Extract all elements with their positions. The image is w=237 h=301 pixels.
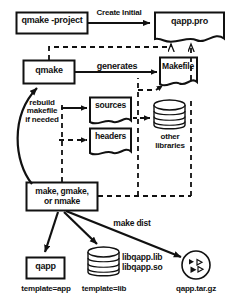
- edge-into-makefile: [138, 85, 163, 90]
- node-qapp: [27, 258, 65, 279]
- node-sources: [90, 98, 131, 124]
- node-qapp-pro: [155, 13, 224, 42]
- diagram-canvas: [0, 0, 237, 301]
- node-qmake-project: [17, 13, 88, 34]
- node-make-gmake-nmake: [27, 183, 98, 211]
- edge-make-to-qapp: [45, 212, 58, 252]
- edge-qmake-reads-pro: [49, 44, 171, 60]
- node-headers: [90, 129, 131, 155]
- node-other-libraries: [154, 100, 185, 129]
- node-libqapp: [88, 247, 119, 276]
- edge-rebuild-makefile: [18, 88, 37, 184]
- qmake-flow-diagram: qmake -project qapp.pro Create Initial q…: [0, 0, 237, 301]
- node-qmake: [24, 61, 75, 84]
- edge-make-dist: [66, 211, 181, 257]
- node-qapp-targz: [182, 251, 210, 279]
